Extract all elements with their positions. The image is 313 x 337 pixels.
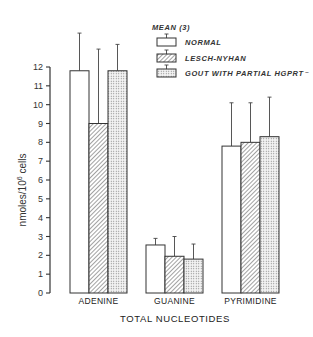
legend-title: MEAN (3)	[152, 23, 190, 32]
legend-swatch	[157, 54, 176, 62]
category-labels: ADENINEGUANINEPYRIMIDINE	[79, 296, 277, 306]
category-label: ADENINE	[79, 296, 119, 306]
legend-label: GOUT WITH PARTIAL HGPRT⁻	[185, 69, 309, 78]
y-tick-label: 7	[38, 156, 43, 166]
y-axis-label: nmoles/106 cells	[16, 154, 28, 227]
bar-group-guanine	[146, 237, 203, 294]
y-tick-label: 6	[38, 175, 43, 185]
category-label: PYRIMIDINE	[224, 296, 277, 306]
legend-label: NORMAL	[185, 38, 222, 47]
legend-item: GOUT WITH PARTIAL HGPRT⁻	[157, 65, 309, 78]
y-tick-label: 2	[38, 250, 43, 260]
bar	[89, 124, 108, 294]
bar-group-adenine	[70, 33, 127, 293]
bar	[108, 71, 127, 293]
y-tick-label: 12	[33, 62, 43, 72]
x-axis-label: TOTAL NUCLEOTIDES	[120, 313, 230, 324]
y-tick-label: 0	[38, 288, 43, 298]
bar-chart: 0123456789101112 ADENINEGUANINEPYRIMIDIN…	[0, 0, 313, 337]
legend-label: LESCH-NYHAN	[185, 54, 246, 63]
legend-item: NORMAL	[157, 34, 222, 47]
bar	[165, 256, 184, 293]
y-tick-label: 9	[38, 119, 43, 129]
category-label: GUANINE	[154, 296, 195, 306]
y-tick-label: 1	[38, 269, 43, 279]
bar	[184, 259, 203, 293]
bar	[222, 146, 241, 293]
y-tick-label: 11	[34, 81, 43, 91]
y-axis: 0123456789101112	[33, 62, 50, 298]
y-tick-label: 10	[33, 100, 43, 110]
legend-swatch	[157, 38, 176, 46]
bar	[260, 137, 279, 293]
bar-group-pyrimidine	[222, 97, 279, 293]
legend: MEAN (3) NORMALLESCH-NYHANGOUT WITH PART…	[152, 23, 309, 78]
legend-swatch	[157, 69, 176, 77]
y-tick-label: 4	[38, 213, 43, 223]
y-tick-label: 5	[38, 194, 43, 204]
bar	[70, 71, 89, 293]
legend-item: LESCH-NYHAN	[157, 50, 246, 63]
bar	[146, 245, 165, 293]
y-tick-label: 8	[38, 137, 43, 147]
y-tick-label: 3	[38, 232, 43, 242]
bar	[241, 142, 260, 293]
